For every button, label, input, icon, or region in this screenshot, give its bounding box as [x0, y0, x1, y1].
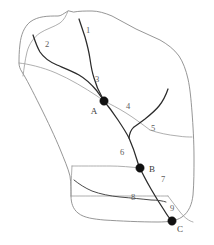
- watershed-diagram: 1 2 3 4 5 6 7 8 9 A B C: [0, 0, 214, 245]
- reach-label-3: 3: [95, 74, 99, 84]
- nodes-group: [100, 97, 176, 225]
- stream-reach-5: [129, 89, 168, 138]
- node-label-b: B: [149, 164, 155, 174]
- reach-label-6: 6: [120, 147, 124, 157]
- reach-label-4: 4: [126, 101, 131, 111]
- node-dot-c[interactable]: [168, 217, 176, 225]
- watershed-canvas: 1 2 3 4 5 6 7 8 9 A B C: [0, 0, 214, 245]
- stream-reach-7-9: [140, 168, 172, 221]
- sub-basin-divide: [150, 130, 192, 137]
- reach-label-5: 5: [151, 123, 155, 133]
- reach-label-9: 9: [170, 203, 174, 213]
- sub-basin-divide: [71, 166, 72, 196]
- node-dot-b[interactable]: [136, 164, 144, 172]
- reach-labels-group: 1 2 3 4 5 6 7 8 9: [45, 25, 174, 213]
- sub-basin-divide: [72, 166, 140, 168]
- node-dot-a[interactable]: [100, 97, 108, 105]
- reach-label-8: 8: [131, 192, 135, 202]
- stream-reach-1: [79, 19, 104, 101]
- node-label-c: C: [177, 224, 183, 234]
- reach-label-7: 7: [161, 174, 165, 184]
- stream-network-group: [33, 19, 172, 221]
- reach-label-2: 2: [45, 39, 49, 49]
- reach-label-1: 1: [86, 25, 90, 35]
- node-label-a: A: [91, 106, 98, 116]
